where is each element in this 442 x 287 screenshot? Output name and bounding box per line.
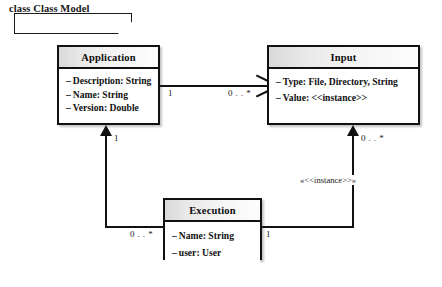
- class-box-execution[interactable]: Execution –Name: String –user: User: [163, 198, 262, 260]
- attribute-text: Version: Double: [73, 102, 139, 113]
- association-execution-application-segment-h: [105, 226, 165, 228]
- class-header-execution: Execution: [165, 200, 260, 222]
- attribute-visibility: –: [172, 247, 179, 258]
- attribute-text: Name: String: [73, 89, 128, 100]
- multiplicity-execution-input-source: 1: [266, 229, 271, 239]
- class-attribute: –user: User: [172, 244, 253, 261]
- attribute-visibility: –: [66, 75, 73, 86]
- diagram-frame-label-text: class Class Model: [9, 3, 89, 14]
- class-attributes-input: –Type: File, Directory, String –Value: <…: [269, 69, 418, 110]
- multiplicity-execution-application-source: 0 . . *: [130, 229, 153, 239]
- class-attribute: –Name: String: [172, 227, 253, 244]
- attribute-visibility: –: [66, 102, 73, 113]
- class-attribute: –Type: File, Directory, String: [276, 74, 411, 90]
- open-arrowhead-icon: [255, 79, 267, 93]
- class-diagram-canvas: class Class Model 1 0 . . * 0 . . * 1 1 …: [0, 0, 442, 287]
- class-header-application: Application: [59, 47, 158, 69]
- class-attribute: –Name: String: [66, 88, 151, 102]
- attribute-text: Description: String: [73, 75, 152, 86]
- class-box-input[interactable]: Input –Type: File, Directory, String –Va…: [267, 45, 420, 125]
- class-attribute: –Description: String: [66, 74, 151, 88]
- solid-arrowhead-icon: [347, 125, 359, 136]
- diagram-frame-label: [14, 13, 132, 34]
- association-execution-input-segment-h: [261, 226, 354, 228]
- attribute-visibility: –: [276, 92, 283, 103]
- class-box-application[interactable]: Application –Description: String –Name: …: [57, 45, 160, 125]
- solid-arrowhead-icon: [100, 125, 112, 136]
- attribute-text: Type: File, Directory, String: [283, 76, 398, 87]
- attribute-text: Name: String: [179, 230, 234, 241]
- attribute-visibility: –: [172, 230, 179, 241]
- class-attribute: –Version: Double: [66, 101, 151, 115]
- class-name-execution: Execution: [189, 205, 236, 216]
- multiplicity-execution-application-target: 1: [114, 133, 119, 143]
- class-attributes-execution: –Name: String –user: User: [165, 222, 260, 265]
- attribute-visibility: –: [66, 89, 73, 100]
- class-attributes-application: –Description: String –Name: String –Vers…: [59, 69, 158, 119]
- class-attribute: –Value: <<instance>>: [276, 90, 411, 106]
- attribute-visibility: –: [276, 76, 283, 87]
- multiplicity-application-input-target: 0 . . *: [228, 88, 251, 98]
- class-name-input: Input: [330, 52, 356, 63]
- attribute-text: user: User: [179, 247, 221, 258]
- class-name-application: Application: [81, 52, 136, 63]
- class-header-input: Input: [269, 47, 418, 69]
- multiplicity-application-input-source: 1: [168, 88, 173, 98]
- multiplicity-execution-input-target: 0 . . *: [361, 133, 384, 143]
- association-execution-application-segment-v: [105, 136, 107, 228]
- association-application-input-line: [158, 85, 269, 87]
- stereotype-instance-label: «<<instance>>»: [298, 175, 358, 185]
- attribute-text: Value: <<instance>>: [283, 92, 367, 103]
